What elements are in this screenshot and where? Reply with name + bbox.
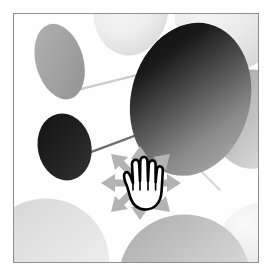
viewport-frame[interactable] [13, 13, 259, 263]
screenshot-root [0, 0, 271, 277]
molecular-scene[interactable] [14, 14, 258, 262]
scene-svg [14, 14, 258, 262]
